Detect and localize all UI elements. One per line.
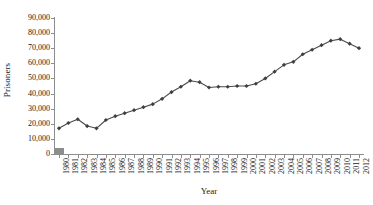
y-axis-tick-label: 80,000 [28,29,50,37]
data-point-marker [132,108,136,112]
x-axis-tick-label: 1983 [91,158,99,174]
x-axis-tick-label: 1995 [203,158,211,174]
y-axis-tick-label: 60,000 [28,59,50,67]
data-point-marker [235,84,239,88]
y-axis-tick-mark [51,139,54,140]
y-axis-tick-mark [51,18,54,19]
x-axis-tick-labels: 1980198119821983198419851986198719881989… [55,158,363,182]
x-axis-tick-label: 1985 [109,158,117,174]
x-axis-tick-label: 1999 [241,158,249,174]
x-axis-tick-label: 2010 [344,158,352,174]
y-axis-tick-mark [51,33,54,34]
x-axis-tick-label: 1986 [119,158,127,174]
data-point-marker [329,39,333,43]
data-point-marker [113,114,117,118]
y-axis-tick-mark [51,63,54,64]
x-axis-tick-label: 2012 [363,158,371,174]
x-axis-tick-label: 1984 [100,158,108,174]
y-axis-tick-label: 30,000 [28,105,50,113]
x-axis-tick-label: 1992 [175,158,183,174]
x-axis-tick-label: 1990 [156,158,164,174]
prisoners-by-year-line-chart: Prisoners 010,00020,00030,00040,00050,00… [0,0,373,205]
x-axis-tick-label: 2004 [288,158,296,174]
plot-area [55,18,363,154]
x-axis-tick-label: 2011 [353,158,361,174]
data-point-marker [66,121,70,125]
x-axis-tick-label: 2001 [259,158,267,174]
y-axis-tick-mark [51,48,54,49]
data-point-marker [226,85,230,89]
y-axis-tick-label: 0 [46,150,50,158]
data-point-marker [244,84,248,88]
y-axis-tick-label: 90,000 [28,14,50,22]
y-axis-tick-label: 70,000 [28,44,50,52]
y-axis-tick-label: 10,000 [28,135,50,143]
y-axis-tick-mark [51,94,54,95]
x-axis-tick-label: 1993 [184,158,192,174]
data-point-marker [348,42,352,46]
y-axis-tick-label: 50,000 [28,74,50,82]
data-point-marker [151,102,155,106]
data-point-marker [310,48,314,52]
y-axis-tick-mark [51,154,54,155]
x-axis-tick-label: 1994 [194,158,202,174]
x-axis-tick-label: 1980 [63,158,71,174]
x-axis-tick-label: 2007 [316,158,324,174]
y-axis-title: Prisoners [0,0,14,160]
x-axis-tick-label: 1996 [213,158,221,174]
x-axis-tick-label: 2009 [334,158,342,174]
data-point-marker [57,126,61,130]
x-axis-tick-label: 1981 [72,158,80,174]
data-point-marker [207,85,211,89]
x-axis-tick-label: 2008 [325,158,333,174]
y-axis-title-label: Prisoners [2,63,12,97]
x-axis-tick-label: 1997 [222,158,230,174]
x-axis-title: Year [55,186,363,196]
data-series-svg [55,18,363,154]
y-axis-tick-mark [51,109,54,110]
data-point-marker [123,111,127,115]
x-axis-tick-label: 1989 [147,158,155,174]
y-axis-tick-label: 40,000 [28,90,50,98]
y-axis-tick-mark [51,78,54,79]
data-point-marker [198,80,202,84]
x-axis-tick-label: 1982 [81,158,89,174]
x-axis-tick-label: 1988 [138,158,146,174]
x-axis-tick-label: 2002 [269,158,277,174]
y-axis-tick-label: 20,000 [28,120,50,128]
x-axis-tick-label: 1991 [166,158,174,174]
x-axis-tick-label: 2005 [297,158,305,174]
data-point-marker [319,43,323,47]
data-point-marker [254,82,258,86]
x-axis-tick-label: 1998 [231,158,239,174]
series-markers [57,37,361,130]
x-axis-tick-label: 1987 [128,158,136,174]
data-point-marker [338,37,342,41]
data-point-marker [141,105,145,109]
data-point-marker [216,85,220,89]
x-axis-tick-label: 2003 [278,158,286,174]
y-axis-tick-mark [51,124,54,125]
series-line [59,39,359,128]
y-axis-tick-labels: 010,00020,00030,00040,00050,00060,00070,… [14,13,52,155]
x-axis-tick-label: 2006 [306,158,314,174]
data-point-marker [357,46,361,50]
x-axis-tick-label: 2000 [250,158,258,174]
